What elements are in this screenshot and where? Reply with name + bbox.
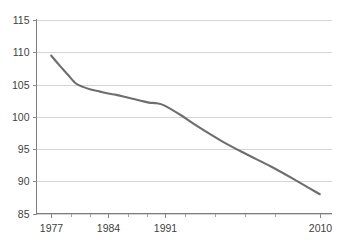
x-axis-tick-label: 1977 [40, 222, 64, 234]
y-axis-tick-labels: 859095100105110115 [12, 14, 30, 220]
y-axis-tick-label: 115 [13, 14, 30, 26]
y-axis-tick-label: 105 [12, 79, 30, 91]
chart-canvas: 859095100105110115 1977198419912010 [0, 0, 355, 245]
line-chart: 859095100105110115 1977198419912010 [0, 0, 355, 245]
y-axis-tick-label: 100 [12, 111, 30, 123]
y-axis-tick-label: 90 [18, 175, 30, 187]
x-axis-tick-labels: 1977198419912010 [40, 222, 333, 234]
y-axis-tick-label: 110 [13, 46, 30, 58]
y-axis-tick-label: 85 [18, 208, 30, 220]
x-axis-tick-label: 1984 [97, 222, 121, 234]
x-axis-tick-label: 2010 [309, 222, 333, 234]
y-axis-tick-label: 95 [18, 143, 30, 155]
x-axis-tick-label: 1991 [154, 222, 178, 234]
